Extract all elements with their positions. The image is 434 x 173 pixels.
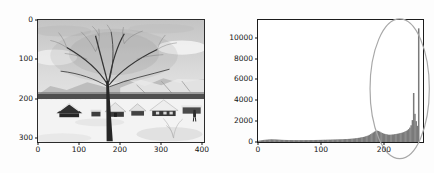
image-panel: 01002003004000100200300 <box>37 19 205 143</box>
x-tick-label: 100 <box>72 146 86 154</box>
winter-scene-image <box>38 20 204 142</box>
y-tick-label: 2000 <box>234 117 253 125</box>
x-tick-label: 200 <box>113 146 127 154</box>
y-tick-mark <box>35 98 38 99</box>
x-tick-label: 400 <box>195 146 209 154</box>
y-tick-mark <box>255 121 258 122</box>
y-tick-label: 10000 <box>229 34 253 42</box>
x-tick-label: 100 <box>314 146 328 154</box>
y-tick-mark <box>35 138 38 139</box>
histogram-panel: 01002000200040006000800010000 <box>257 19 424 143</box>
histogram-svg <box>258 20 423 142</box>
x-tick-label: 0 <box>36 146 41 154</box>
y-tick-mark <box>255 58 258 59</box>
y-tick-mark <box>255 142 258 143</box>
y-tick-label: 6000 <box>234 76 253 84</box>
y-tick-label: 4000 <box>234 97 253 105</box>
x-tick-label: 0 <box>256 146 261 154</box>
y-tick-mark <box>255 79 258 80</box>
histogram-bars <box>258 28 419 142</box>
x-tick-label: 200 <box>377 146 391 154</box>
y-tick-label: 0 <box>28 16 33 24</box>
y-tick-mark <box>35 59 38 60</box>
y-tick-label: 100 <box>19 56 33 64</box>
y-tick-mark <box>255 100 258 101</box>
y-tick-mark <box>35 20 38 21</box>
y-tick-label: 200 <box>19 95 33 103</box>
figure-canvas: 01002003004000100200300 0100200020004000… <box>0 0 434 173</box>
y-tick-label: 300 <box>19 134 33 142</box>
x-tick-label: 300 <box>154 146 168 154</box>
y-tick-label: 0 <box>248 138 253 146</box>
y-tick-label: 8000 <box>234 55 253 63</box>
y-tick-mark <box>255 37 258 38</box>
